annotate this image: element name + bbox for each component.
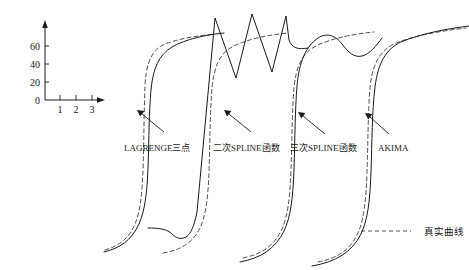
true-curve-panel-1 (105, 34, 214, 250)
x-axis-tick-label-3: 3 (90, 104, 95, 115)
annotation-label-akima: AKIMA (378, 143, 409, 153)
series-group-quadratic-spline (148, 14, 308, 253)
cubic-spline-leader-line (303, 116, 325, 134)
y-axis-tick-label-40: 40 (30, 59, 40, 70)
interpolation-comparison-figure: 60 40 20 0 1 2 3 LAGRENGE三点 (0, 0, 469, 270)
x-axis-arrowhead (97, 97, 105, 103)
annotation-label-lagrange: LAGRENGE三点 (124, 143, 191, 153)
lagrange-leader-line (142, 114, 164, 132)
y-axis-tick-label-0: 0 (35, 95, 40, 106)
chart-canvas: 60 40 20 0 1 2 3 LAGRENGE三点 (0, 0, 469, 270)
x-axis-tick-label-1: 1 (58, 104, 63, 115)
y-axis-tick-label-60: 60 (30, 41, 40, 52)
x-axis-tick-label-2: 2 (74, 104, 79, 115)
y-axis-tick-label-20: 20 (30, 77, 40, 88)
legend: 真实曲线 (361, 226, 464, 237)
annotation-label-cubic-spline: 三次SPLINE函数 (290, 142, 357, 153)
axes-group: 60 40 20 0 1 2 3 (30, 20, 105, 115)
legend-label-true-curve: 真实曲线 (424, 226, 464, 237)
annotation-cubic-spline: 三次SPLINE函数 (290, 112, 357, 153)
quadratic-spline-curve (148, 14, 308, 238)
annotation-quadratic-spline: 二次SPLINE函数 (213, 110, 280, 153)
quadratic-spline-leader-line (229, 114, 251, 132)
annotation-lagrange: LAGRENGE三点 (124, 110, 191, 153)
y-axis-arrowhead (42, 20, 48, 28)
annotation-label-quadratic-spline: 二次SPLINE函数 (213, 142, 280, 153)
